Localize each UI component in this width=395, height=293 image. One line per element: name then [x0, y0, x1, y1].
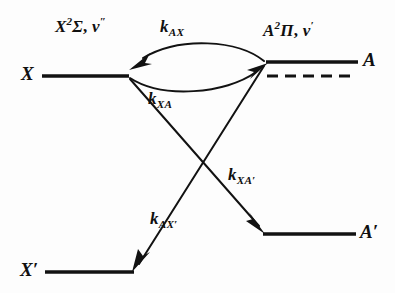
term-label-X: X2Σ, v″ — [55, 16, 106, 35]
term-A-letter: A — [263, 21, 275, 40]
arrow-kAX-head — [129, 53, 152, 70]
term-X-symmetry: Σ — [72, 17, 83, 36]
rate-label-kAXprime: kAX′ — [150, 210, 177, 231]
term-A-comma: , — [294, 21, 303, 40]
state-label-A: A — [363, 50, 376, 69]
rate-label-kAX: kAX — [160, 18, 184, 39]
energy-level-diagram-svg — [0, 0, 395, 293]
rate-label-kXAprime: kXA′ — [228, 166, 255, 187]
rate-kXA-base: k — [148, 89, 157, 108]
term-X-letter: X — [55, 17, 67, 36]
arrow-kAX-path — [143, 43, 264, 61]
state-label-X-prime: X′ — [20, 260, 38, 279]
state-label-X: X — [21, 64, 34, 83]
rate-kAXprime-subscript: AX′ — [159, 218, 178, 230]
rate-kXAprime-subscript: XA′ — [237, 174, 256, 186]
term-A-prime: ′ — [310, 19, 313, 31]
term-label-A: A2Π, v′ — [263, 20, 314, 39]
term-X-vibration: v — [92, 17, 100, 36]
term-X-comma: , — [83, 17, 92, 36]
rate-kAX-subscript: AX — [169, 26, 184, 38]
rate-label-kXA: kXA — [148, 90, 172, 111]
rate-kXA-subscript: XA — [157, 98, 172, 110]
diagram-canvas: X X′ A A′ X2Σ, v″ A2Π, v′ kAX kXA kXA′ k… — [0, 0, 395, 293]
arrow-kAX — [129, 43, 264, 70]
state-label-A-prime: A′ — [360, 222, 378, 241]
term-X-prime: ″ — [100, 15, 106, 27]
arrow-kXA — [130, 63, 268, 91]
rate-kAXprime-base: k — [150, 209, 159, 228]
rate-kXAprime-base: k — [228, 165, 237, 184]
rate-kAX-base: k — [160, 17, 169, 36]
term-A-symmetry: Π — [280, 21, 293, 40]
